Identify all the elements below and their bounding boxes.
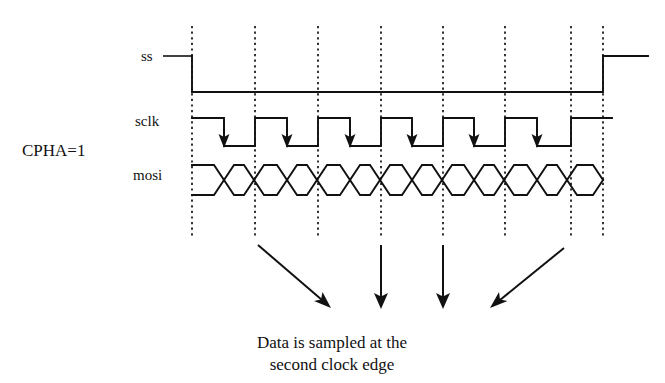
sclk-sample-arrow-4 [407,120,418,148]
signal-label-sclk: sclk [135,113,160,129]
ss-waveform [192,56,648,92]
annotation-arrow-4 [490,248,564,308]
annotation-arrow-2 [374,245,388,309]
sclk-waveform [192,118,612,146]
sclk-sample-arrow-1 [219,120,230,148]
signal-label-mosi: mosi [133,167,162,183]
mode-label: CPHA=1 [22,141,85,160]
mosi-waveform-lower [192,165,603,195]
caption-line-1: Data is sampled at the [257,333,407,352]
sclk-sample-arrow-2 [282,120,293,148]
spi-timing-svg: CPHA=1 ss sclk [0,0,665,383]
sclk-sample-arrow-3 [345,120,356,148]
timing-diagram-canvas: CPHA=1 ss sclk [0,0,665,383]
signal-label-ss: ss [141,48,153,64]
sclk-sample-arrow-6 [532,120,543,148]
annotation-arrow-1 [258,245,331,308]
annotation-arrows [258,245,564,309]
annotation-arrow-3 [436,245,450,309]
sclk-sample-arrow-5 [469,120,480,148]
clock-edge-gridlines [192,26,603,237]
caption-line-2: second clock edge [270,355,395,374]
